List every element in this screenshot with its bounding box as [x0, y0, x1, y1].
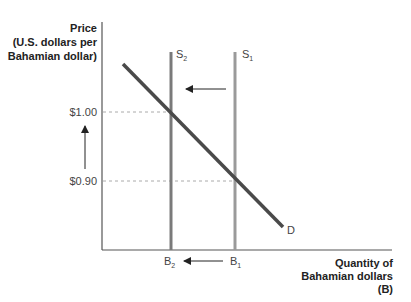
x-axis-title-line-2: Bahamian dollars: [301, 270, 393, 282]
x-tick-b1: B1: [230, 255, 241, 269]
y-tick-1-00: $1.00: [69, 106, 97, 118]
demand-curve: [123, 64, 283, 227]
x-axis-title-line-3: (B): [378, 283, 394, 295]
y-tick-0-90: $0.90: [69, 175, 97, 187]
x-tick-b2: B2: [164, 255, 175, 269]
y-axis-title-line-3: Bahamian dollar): [8, 50, 98, 62]
y-axis-title-line-1: Price: [70, 22, 97, 34]
x-axis-title-line-1: Quantity of: [335, 257, 393, 269]
label-s2: S2: [176, 48, 187, 62]
label-d: D: [287, 224, 295, 236]
label-s1: S1: [242, 48, 253, 62]
y-axis-title-line-2: (U.S. dollars per: [13, 36, 98, 48]
supply-demand-diagram: Price (U.S. dollars per Bahamian dollar)…: [0, 0, 411, 302]
